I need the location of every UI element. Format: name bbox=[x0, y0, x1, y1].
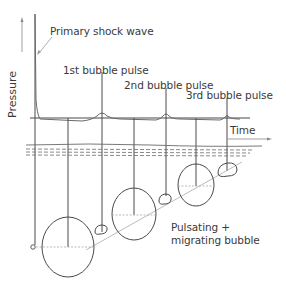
bubble-label-line2: migrating bubble bbox=[171, 234, 260, 246]
diagram-canvas bbox=[0, 0, 286, 292]
pulse3-label: 3rd bubble pulse bbox=[186, 89, 273, 101]
time-axis-arrow bbox=[228, 138, 272, 141]
bubble-label-line1: Pulsating + bbox=[171, 221, 230, 233]
charge-origin-icon bbox=[31, 245, 35, 249]
pulse1-label: 1st bubble pulse bbox=[63, 64, 149, 76]
underwater-explosion-diagram: Pressure Time Primary shock wave 1st bub… bbox=[0, 0, 286, 292]
shock-pointer-line bbox=[39, 37, 52, 53]
bubble1-collapsed bbox=[95, 225, 107, 234]
bubble2-collapsed bbox=[159, 194, 171, 204]
pressure-axis-arrow bbox=[21, 17, 24, 52]
primary-shock-label: Primary shock wave bbox=[50, 25, 154, 37]
x-axis-label: Time bbox=[230, 124, 255, 136]
y-axis-label: Pressure bbox=[6, 71, 19, 118]
